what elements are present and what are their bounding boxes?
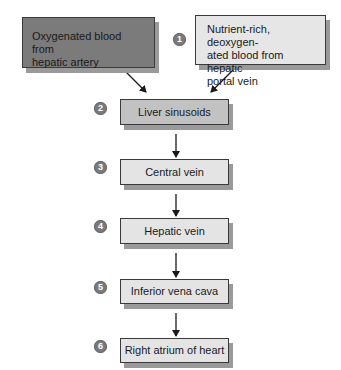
- portal-vein-label-line1: Nutrient-rich, deoxygen-: [207, 23, 317, 49]
- step-badge-3: 3: [94, 161, 107, 174]
- step-badge-4: 4: [94, 220, 107, 233]
- step-badge-1: 1: [173, 33, 186, 46]
- right-atrium-box: Right atrium of heart: [120, 338, 229, 363]
- arrow-artery-to-sinusoids: [121, 67, 146, 92]
- portal-vein-label-line3: portal vein: [207, 75, 317, 88]
- inferior-vena-cava-label: Inferior vena cava: [131, 285, 218, 298]
- step-badge-6: 6: [94, 340, 107, 353]
- hepatic-vein-box: Hepatic vein: [120, 218, 229, 244]
- step-badge-5: 5: [94, 281, 107, 294]
- hepatic-artery-label-line2: hepatic artery: [32, 56, 146, 69]
- hepatic-vein-label: Hepatic vein: [144, 225, 205, 238]
- portal-vein-box: Nutrient-rich, deoxygen- ated blood from…: [195, 15, 326, 65]
- hepatic-artery-label-line1: Oxygenated blood from: [32, 30, 146, 56]
- hepatic-artery-box: Oxygenated blood from hepatic artery: [22, 17, 155, 68]
- portal-vein-label-line2: ated blood from hepatic: [207, 49, 317, 75]
- right-atrium-label: Right atrium of heart: [125, 344, 225, 357]
- central-vein-label: Central vein: [145, 166, 204, 179]
- step-badge-2: 2: [94, 102, 107, 115]
- central-vein-box: Central vein: [120, 159, 229, 185]
- inferior-vena-cava-box: Inferior vena cava: [120, 279, 229, 304]
- liver-sinusoids-box: Liver sinusoids: [120, 99, 229, 125]
- liver-sinusoids-label: Liver sinusoids: [138, 106, 211, 119]
